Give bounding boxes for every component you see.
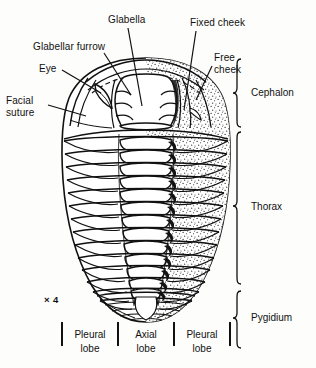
region-braces <box>233 59 241 348</box>
label-facial-suture-line2: suture <box>6 107 34 119</box>
lobe-label-pleural-left-line1: Pleural <box>66 329 114 341</box>
brace-thorax <box>233 132 241 284</box>
region-label-thorax: Thorax <box>251 201 282 212</box>
label-free-cheek-line2: cheek <box>214 64 241 76</box>
region-label-cephalon: Cephalon <box>251 87 294 98</box>
label-facial-suture-line1: Facial <box>6 95 33 107</box>
label-free-cheek-line1: Free <box>214 52 235 64</box>
lobe-label-axial-line2: lobe <box>122 343 170 355</box>
label-eye: Eye <box>39 63 57 74</box>
glabella <box>115 74 177 130</box>
lobe-label-pleural-left-line2: lobe <box>66 343 114 355</box>
figure-canvas: Glabella Glabellar furrow Eye Facial sut… <box>0 0 316 368</box>
body-group <box>48 28 241 348</box>
occipital-ring <box>120 123 172 130</box>
lobe-label-pleural-right-line2: lobe <box>178 343 226 355</box>
label-glabella: Glabella <box>108 14 146 25</box>
magnification-label: × 4 <box>44 294 59 305</box>
brace-pygidium <box>233 291 241 348</box>
region-label-pygidium: Pygidium <box>251 312 292 323</box>
label-fixed-cheek: Fixed cheek <box>190 17 245 28</box>
lobe-label-axial-line1: Axial <box>122 329 170 341</box>
lobe-label-pleural-right-line1: Pleural <box>178 329 226 341</box>
label-glabellar-furrow: Glabellar furrow <box>33 41 105 52</box>
